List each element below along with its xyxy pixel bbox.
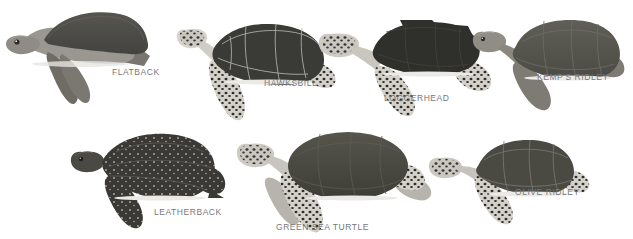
sea-turtle-species-chart: FLATBACK HAWKSBILL LOGGERHEAD KEMP'S RID… xyxy=(0,0,633,239)
turtle-olive-ridley xyxy=(429,140,589,224)
species-label-kemps-ridley: KEMP'S RIDLEY xyxy=(537,73,609,82)
species-label-flatback: FLATBACK xyxy=(112,68,160,77)
turtle-kemps-ridley xyxy=(473,20,625,110)
species-label-olive-ridley: OLIVE RIDLEY xyxy=(515,188,580,197)
turtle-green-sea-turtle xyxy=(237,132,431,232)
species-label-hawksbill: HAWKSBILL xyxy=(264,79,317,88)
species-label-green-sea-turtle: GREEN SEA TURTLE xyxy=(276,223,369,232)
species-label-leatherback: LEATHERBACK xyxy=(154,208,222,217)
turtle-illustrations-svg xyxy=(0,0,633,239)
turtle-flatback xyxy=(6,12,150,104)
turtle-hawksbill xyxy=(177,24,336,120)
species-label-loggerhead: LOGGERHEAD xyxy=(384,94,450,103)
